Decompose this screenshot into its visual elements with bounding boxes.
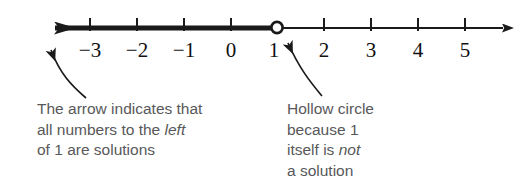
right-callout-pointer [288, 43, 322, 96]
tick-label-0: 0 [226, 40, 237, 61]
hollow-circle-note-line2: because 1 [287, 120, 374, 141]
tick-label-3: 3 [366, 40, 377, 61]
arrow-direction-note-emphasis-left: left [165, 121, 186, 138]
tick-label-neg2: −2 [126, 40, 148, 61]
number-line-figure: −3 −2 −1 0 1 2 3 4 5 The arrow indicates… [0, 0, 526, 196]
tick-label-4: 4 [413, 40, 424, 61]
hollow-circle-note-emphasis-not: not [339, 141, 361, 158]
arrow-direction-note-line3: of 1 are solutions [37, 140, 202, 161]
hollow-circle-endpoint [271, 22, 282, 33]
tick-label-neg3: −3 [79, 40, 101, 61]
arrow-direction-note-line1: The arrow indicates that [37, 99, 202, 120]
arrow-direction-note-line2: all numbers to the left [37, 120, 202, 141]
hollow-circle-note-line1: Hollow circle [287, 99, 374, 120]
tick-label-2: 2 [319, 40, 330, 61]
tick-label-5: 5 [460, 40, 471, 61]
hollow-circle-note-line3: itself is not [287, 140, 374, 161]
hollow-circle-note-line3-text: itself is [287, 141, 339, 158]
number-line-graphic [0, 0, 526, 196]
tick-label-1: 1 [269, 40, 280, 61]
hollow-circle-note-line4: a solution [287, 161, 374, 182]
hollow-circle-note: Hollow circle because 1 itself is not a … [287, 99, 374, 181]
arrow-direction-note: The arrow indicates that all numbers to … [37, 99, 202, 161]
tick-label-neg1: −1 [173, 40, 195, 61]
arrow-direction-note-line2-text: all numbers to the [37, 121, 165, 138]
